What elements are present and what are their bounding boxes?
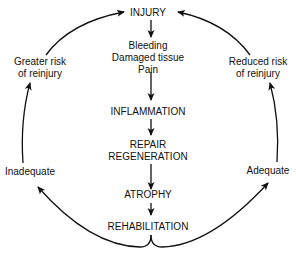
condition-adequate-label: Adequate — [247, 165, 290, 176]
node-symptoms: Bleeding Damaged tissue Pain — [98, 40, 198, 76]
condition-adequate: Adequate — [242, 165, 294, 177]
node-inflammation: INFLAMMATION — [98, 106, 198, 118]
node-injury-label: INJURY — [130, 7, 166, 18]
node-injury: INJURY — [98, 7, 198, 19]
outcome-greater-risk-line2: of reinjury — [2, 68, 78, 80]
outcome-reduced-risk: Reduced risk of reinjury — [220, 56, 296, 80]
outcome-reduced-risk-line2: of reinjury — [220, 68, 296, 80]
node-repair-label: REPAIR — [98, 139, 198, 151]
diagram-arrows — [0, 0, 296, 253]
node-rehabilitation: REHABILITATION — [98, 221, 198, 233]
symptom-damaged-tissue: Damaged tissue — [98, 52, 198, 64]
outcome-reduced-risk-line1: Reduced risk — [220, 56, 296, 68]
arrow-inadequate-to-greater-risk — [22, 83, 30, 163]
node-repair: REPAIR REGENERATION — [98, 139, 198, 163]
node-inflammation-label: INFLAMMATION — [111, 106, 186, 117]
arrow-adequate-to-reduced-risk — [270, 83, 278, 162]
condition-inadequate-label: Inadequate — [5, 166, 55, 177]
node-rehabilitation-label: REHABILITATION — [108, 221, 189, 232]
node-atrophy: ATROPHY — [98, 189, 198, 201]
outcome-greater-risk: Greater risk of reinjury — [2, 56, 78, 80]
outcome-greater-risk-line1: Greater risk — [2, 56, 78, 68]
symptom-bleeding: Bleeding — [98, 40, 198, 52]
node-regeneration-label: REGENERATION — [98, 151, 198, 163]
symptom-pain: Pain — [98, 64, 198, 76]
condition-inadequate: Inadequate — [2, 166, 58, 178]
node-atrophy-label: ATROPHY — [124, 189, 172, 200]
